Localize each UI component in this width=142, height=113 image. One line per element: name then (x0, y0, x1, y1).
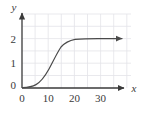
y-tick-label-2: 2 (11, 33, 17, 45)
chart-figure: 2 1 0 0 10 20 30 y x (0, 0, 142, 113)
y-tick-label-1: 1 (11, 57, 17, 69)
x-tick-label-30: 30 (95, 92, 107, 104)
x-axis-label: x (131, 82, 137, 94)
y-tick-label-0: 0 (11, 79, 17, 91)
plot-area: 2 1 0 0 10 20 30 y x (0, 0, 142, 113)
x-tick-label-10: 10 (43, 92, 55, 104)
x-tick-label-20: 20 (69, 92, 81, 104)
grid-horizontal-lines (22, 14, 131, 76)
y-axis-label: y (11, 1, 17, 13)
x-tick-label-0: 0 (19, 92, 25, 104)
